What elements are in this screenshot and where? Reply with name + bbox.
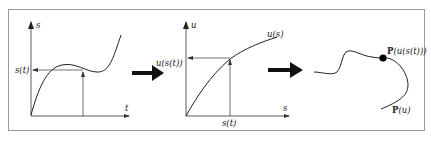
curve-label: P(u) — [392, 105, 411, 115]
panel-s-of-t: s t s(t) — [15, 20, 129, 116]
point-marker — [379, 54, 386, 61]
P-curve — [314, 51, 408, 109]
panel-u-of-s: u s u(s) s(t) u(s(t)) — [156, 20, 289, 128]
arrow-right-icon — [268, 62, 303, 78]
s-axis-2-label: s — [283, 103, 288, 113]
point-label: P(u(s(t))) — [387, 46, 427, 56]
panel-curve-P: P(u(s(t))) P(u) — [314, 46, 427, 115]
s-of-t-curve — [31, 35, 121, 115]
u-of-s-label: u(s) — [267, 29, 283, 39]
t-axis-label: t — [125, 103, 129, 113]
parameterization-diagram: s t s(t) u s u(s) s(t) u(s(t)) P(u(s(t))… — [0, 0, 431, 143]
s-of-t-input-label: s(t) — [222, 118, 236, 128]
s-axis-label: s — [36, 20, 41, 30]
u-axis-label: u — [191, 20, 196, 30]
s-of-t-label: s(t) — [15, 65, 29, 75]
u-of-s-curve — [186, 37, 277, 116]
u-of-s-of-t-label: u(s(t)) — [156, 58, 183, 68]
curve-label-arg: (u) — [398, 105, 410, 115]
point-label-arg: (u(s(t))) — [393, 46, 426, 56]
